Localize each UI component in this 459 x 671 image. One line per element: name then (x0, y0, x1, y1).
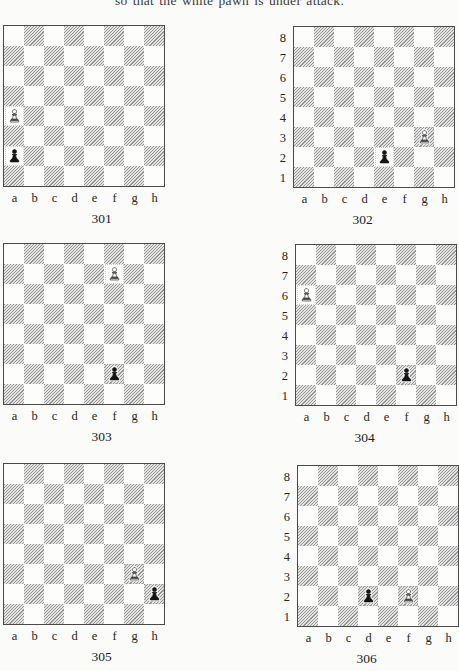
square-d3 (64, 126, 84, 146)
rank-label: 3 (274, 346, 288, 366)
square-a5 (298, 526, 318, 546)
chessboard (295, 244, 457, 406)
square-e6 (374, 67, 394, 87)
file-label: h (439, 631, 459, 646)
square-b5 (24, 304, 44, 324)
square-a3 (296, 345, 316, 365)
square-b3 (24, 564, 44, 584)
square-f1 (104, 166, 124, 186)
square-e2 (84, 364, 104, 384)
square-c8 (44, 244, 64, 264)
square-g8 (418, 466, 438, 486)
square-d5 (64, 304, 84, 324)
square-c6 (44, 504, 64, 524)
square-h6 (434, 67, 454, 87)
square-d1 (358, 606, 378, 626)
chess-diagram-303: abcdefgh303 (3, 243, 166, 445)
square-d8 (64, 244, 84, 264)
square-h7 (144, 46, 164, 66)
square-f4 (104, 106, 124, 126)
square-g6 (418, 506, 438, 526)
square-f1 (398, 606, 418, 626)
square-a8 (294, 27, 314, 47)
square-f3 (394, 127, 414, 147)
square-b1 (316, 385, 336, 405)
file-label: c (45, 191, 65, 206)
square-c8 (336, 245, 356, 265)
square-h4 (438, 546, 458, 566)
square-g4 (124, 106, 144, 126)
square-d4 (354, 107, 374, 127)
square-h6 (144, 66, 164, 86)
square-a5 (294, 87, 314, 107)
square-h4 (436, 325, 456, 345)
rank-label: 3 (272, 128, 286, 148)
black-pawn-icon (398, 366, 415, 384)
file-label: h (145, 409, 165, 424)
square-a7 (4, 484, 24, 504)
square-b4 (24, 324, 44, 344)
square-h2 (144, 584, 164, 604)
square-b6 (24, 504, 44, 524)
square-g3 (124, 564, 144, 584)
square-c4 (338, 546, 358, 566)
square-b2 (24, 364, 44, 384)
square-e6 (84, 284, 104, 304)
square-g8 (416, 245, 436, 265)
file-label: c (335, 192, 355, 207)
square-b3 (318, 566, 338, 586)
square-f8 (104, 244, 124, 264)
square-d7 (358, 486, 378, 506)
square-g7 (416, 265, 436, 285)
white-pawn-icon (400, 587, 417, 605)
square-h4 (144, 324, 164, 344)
square-e5 (376, 305, 396, 325)
file-label: b (315, 192, 335, 207)
chessboard (3, 463, 165, 625)
square-h1 (144, 166, 164, 186)
file-labels: abcdefgh (297, 631, 459, 646)
square-b5 (316, 305, 336, 325)
rank-label: 5 (276, 527, 290, 547)
square-g7 (414, 47, 434, 67)
white-pawn-icon (416, 128, 433, 146)
square-a8 (4, 464, 24, 484)
square-a8 (4, 244, 24, 264)
square-d4 (358, 546, 378, 566)
square-e2 (378, 586, 398, 606)
square-h7 (438, 486, 458, 506)
square-c5 (334, 87, 354, 107)
square-e7 (378, 486, 398, 506)
file-label: c (45, 629, 65, 644)
square-h4 (144, 544, 164, 564)
square-h7 (144, 264, 164, 284)
square-h5 (144, 86, 164, 106)
square-f2 (104, 584, 124, 604)
square-c2 (44, 364, 64, 384)
square-b6 (24, 66, 44, 86)
rank-label: 6 (274, 286, 288, 306)
file-label: f (399, 631, 419, 646)
square-f3 (396, 345, 416, 365)
square-g5 (418, 526, 438, 546)
square-g2 (414, 147, 434, 167)
square-c2 (336, 365, 356, 385)
square-d4 (64, 106, 84, 126)
file-label: b (25, 629, 45, 644)
square-f8 (104, 464, 124, 484)
square-c6 (44, 66, 64, 86)
rank-labels: 87654321 (272, 28, 286, 188)
square-b8 (24, 244, 44, 264)
square-e1 (376, 385, 396, 405)
square-g3 (414, 127, 434, 147)
square-b3 (316, 345, 336, 365)
rank-label: 2 (276, 587, 290, 607)
square-a1 (4, 384, 24, 404)
square-d2 (64, 364, 84, 384)
rank-label: 1 (272, 168, 286, 188)
square-d6 (64, 504, 84, 524)
square-g8 (124, 244, 144, 264)
square-c4 (44, 324, 64, 344)
square-b5 (24, 524, 44, 544)
square-g2 (418, 586, 438, 606)
